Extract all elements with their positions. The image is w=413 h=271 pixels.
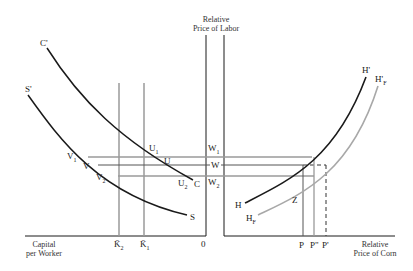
hf-prime-label: H'F bbox=[375, 75, 386, 88]
origin-label: 0 bbox=[201, 240, 206, 249]
v1-sub: 1 bbox=[74, 157, 77, 163]
w1-text: W bbox=[208, 143, 217, 153]
diagram-canvas bbox=[0, 0, 413, 271]
v2-label: V2 bbox=[96, 173, 106, 186]
hf-sub: F bbox=[253, 219, 256, 225]
p-double-prime-label: P" bbox=[310, 241, 319, 250]
c-prime-label: C' bbox=[40, 39, 48, 48]
price-of-labor-title-line2: Price of Labor bbox=[186, 24, 246, 33]
u1-sub: 1 bbox=[156, 149, 159, 155]
hf-label: HF bbox=[246, 214, 256, 227]
price-of-corn-label: Relative Price of Corn bbox=[345, 240, 405, 258]
p-prime-label: P' bbox=[322, 241, 329, 250]
price-of-labor-title: Relative Price of Labor bbox=[186, 15, 246, 33]
hf-prime-sub: F bbox=[383, 80, 386, 86]
v1-label: V1 bbox=[67, 152, 77, 165]
h-curve bbox=[245, 77, 366, 203]
v2-sub: 2 bbox=[103, 178, 106, 184]
u2-sub: 2 bbox=[185, 184, 188, 190]
hf-curve bbox=[258, 86, 378, 215]
corn-label-line1: Relative bbox=[345, 240, 405, 249]
w2-label: W2 bbox=[208, 178, 220, 191]
price-of-labor-title-line1: Relative bbox=[186, 15, 246, 24]
w2-text: W bbox=[208, 177, 217, 187]
w1-label: W1 bbox=[208, 144, 220, 157]
w1-sub: 1 bbox=[217, 149, 220, 155]
s-curve bbox=[28, 95, 187, 215]
k1-label: K̄1 bbox=[140, 240, 150, 253]
u2-label: U2 bbox=[178, 179, 188, 192]
capital-label-line1: Capital bbox=[22, 240, 66, 249]
capital-per-worker-label: Capital per Worker bbox=[22, 240, 66, 258]
k2-label: K̄2 bbox=[114, 240, 124, 253]
u1-label: U1 bbox=[149, 144, 159, 157]
v-label: V bbox=[83, 162, 90, 171]
w-label: W bbox=[210, 161, 221, 170]
w2-sub: 2 bbox=[217, 183, 220, 189]
hf-prime-text: H' bbox=[375, 74, 383, 84]
h-label: H bbox=[235, 201, 242, 210]
k1-label-sub: 1 bbox=[147, 245, 150, 251]
c-label: C bbox=[194, 180, 200, 189]
u-label: U bbox=[164, 157, 171, 166]
h-prime-label: H' bbox=[362, 66, 370, 75]
k2-label-sub: 2 bbox=[121, 245, 124, 251]
s-prime-label: S' bbox=[25, 85, 32, 94]
s-label: S bbox=[190, 213, 195, 222]
p-label: P bbox=[299, 241, 304, 250]
corn-label-line2: Price of Corn bbox=[345, 249, 405, 258]
z-label: Z bbox=[292, 196, 298, 205]
capital-label-line2: per Worker bbox=[22, 249, 66, 258]
